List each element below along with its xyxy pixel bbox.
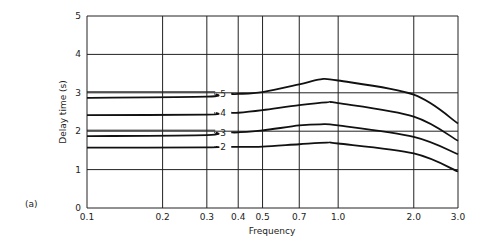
curve-label-3: 3 bbox=[220, 128, 226, 138]
delay-time-chart: 5432 0.10.20.30.40.50.71.02.03.0 012345 … bbox=[0, 0, 487, 248]
y-tick-label: 5 bbox=[75, 11, 81, 21]
y-tick-label: 1 bbox=[75, 165, 81, 175]
y-axis-label: Delay time (s) bbox=[58, 80, 68, 144]
x-tick-label: 2.0 bbox=[407, 212, 422, 222]
curve-2-left bbox=[87, 147, 219, 148]
y-tick-label: 2 bbox=[75, 126, 81, 136]
x-axis-label: Frequency bbox=[249, 226, 296, 236]
curve-label-5: 5 bbox=[220, 89, 226, 99]
y-tick-labels: 012345 bbox=[75, 11, 81, 213]
y-tick-label: 3 bbox=[75, 88, 81, 98]
curve-4-left bbox=[87, 113, 219, 115]
x-tick-labels: 0.10.20.30.40.50.71.02.03.0 bbox=[80, 212, 466, 222]
x-tick-label: 0.7 bbox=[292, 212, 306, 222]
x-gridlines bbox=[87, 16, 458, 208]
curve-4-right bbox=[231, 102, 458, 141]
y-gridlines bbox=[87, 16, 458, 208]
x-tick-label: 0.1 bbox=[80, 212, 94, 222]
curve-label-4: 4 bbox=[220, 108, 226, 118]
curve-3-right bbox=[231, 124, 458, 154]
x-tick-label: 0.3 bbox=[200, 212, 214, 222]
x-tick-label: 0.5 bbox=[255, 212, 269, 222]
x-tick-label: 3.0 bbox=[451, 212, 466, 222]
curve-5-right bbox=[231, 79, 458, 124]
curve-3-left bbox=[87, 132, 219, 136]
x-tick-label: 0.2 bbox=[155, 212, 169, 222]
curve-5-left bbox=[87, 94, 219, 98]
curve-label-2: 2 bbox=[220, 142, 226, 152]
panel-label: (a) bbox=[25, 199, 38, 209]
x-tick-label: 1.0 bbox=[331, 212, 346, 222]
curve-2-right bbox=[231, 142, 458, 171]
y-tick-label: 0 bbox=[75, 203, 81, 213]
y-tick-label: 4 bbox=[75, 49, 81, 59]
x-tick-label: 0.4 bbox=[231, 212, 246, 222]
